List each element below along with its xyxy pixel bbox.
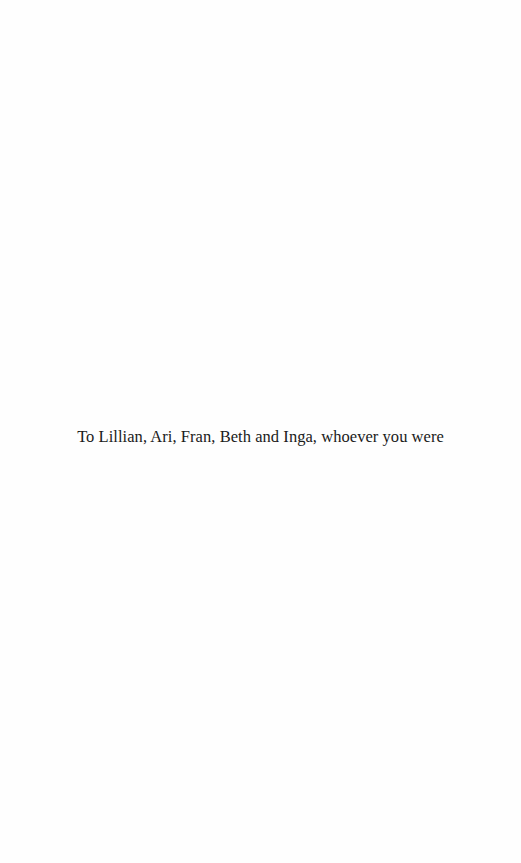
dedication-text: To Lillian, Ari, Fran, Beth and Inga, wh… [0,426,521,448]
book-page: To Lillian, Ari, Fran, Beth and Inga, wh… [0,0,521,863]
